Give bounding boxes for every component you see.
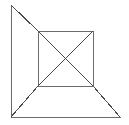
line-figure (0, 0, 129, 125)
figure-background (0, 0, 129, 125)
figure-canvas (0, 0, 129, 125)
